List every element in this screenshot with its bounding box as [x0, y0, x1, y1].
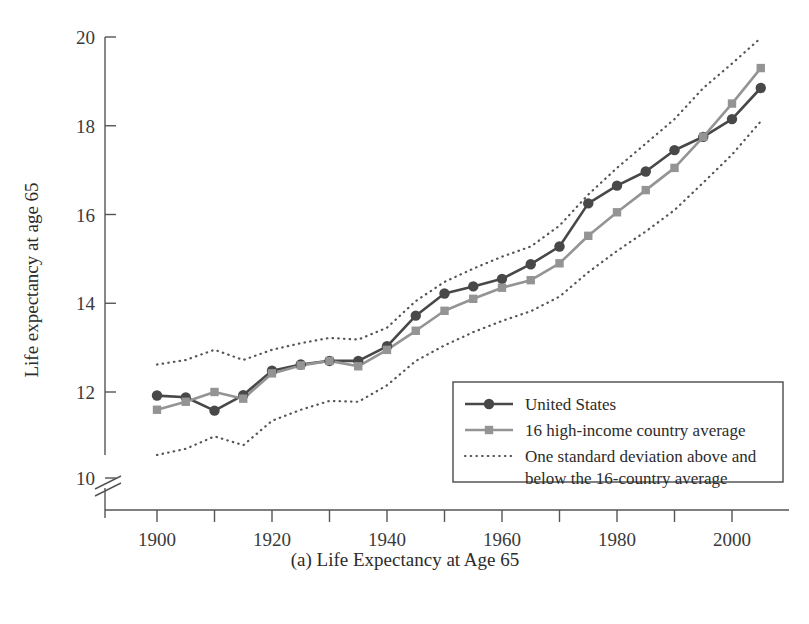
data-point	[497, 274, 507, 284]
y-tick-label: 18	[76, 116, 95, 137]
legend-label-line2: below the 16-country average	[525, 469, 728, 488]
figure-container: 101214161820 190019201940196019802000 Un…	[0, 0, 809, 624]
y-tick-label: 10	[76, 468, 95, 489]
data-point	[555, 259, 563, 267]
series-line-square	[157, 68, 761, 410]
legend: United States16 high-income country aver…	[453, 382, 783, 488]
x-tick-label: 1980	[598, 529, 636, 550]
data-point	[239, 394, 247, 402]
legend-marker-square	[485, 426, 493, 434]
data-point	[727, 114, 737, 124]
data-point	[526, 259, 536, 269]
data-point	[613, 208, 621, 216]
data-point	[642, 186, 650, 194]
data-point	[584, 232, 592, 240]
data-point	[439, 288, 449, 298]
data-point	[153, 406, 161, 414]
data-point	[554, 241, 564, 251]
legend-label: 16 high-income country average	[525, 421, 745, 440]
data-point	[440, 307, 448, 315]
data-point	[527, 276, 535, 284]
y-axis-title: Life expectancy at age 65	[21, 182, 42, 377]
data-point	[612, 180, 622, 190]
data-point	[469, 295, 477, 303]
legend-label: One standard deviation above and	[525, 447, 757, 466]
data-point	[152, 390, 162, 400]
data-point	[268, 369, 276, 377]
data-point	[468, 281, 478, 291]
legend-label: United States	[525, 395, 616, 414]
data-point	[756, 83, 766, 93]
y-tick-label: 16	[76, 205, 95, 226]
data-point	[641, 166, 651, 176]
data-point	[670, 164, 678, 172]
data-point-markers	[152, 64, 766, 416]
y-tick-label: 14	[76, 293, 96, 314]
data-point	[757, 64, 765, 72]
figure-caption: (a) Life Expectancy at Age 65	[291, 549, 519, 571]
data-point	[411, 310, 421, 320]
data-point	[498, 284, 506, 292]
legend-marker-circle	[484, 399, 494, 409]
y-tick-label: 20	[76, 27, 95, 48]
y-tick-label: 12	[76, 382, 95, 403]
data-point	[699, 133, 707, 141]
data-point	[728, 99, 736, 107]
y-axis-break-icon	[95, 476, 121, 496]
series-line-circle	[157, 88, 761, 411]
life-expectancy-line-chart: 101214161820 190019201940196019802000 Un…	[0, 0, 809, 624]
data-point	[412, 327, 420, 335]
x-tick-label: 1960	[483, 529, 521, 550]
x-tick-label: 1940	[368, 529, 406, 550]
series-line-none	[157, 38, 761, 365]
data-point	[325, 357, 333, 365]
x-tick-label: 2000	[713, 529, 751, 550]
data-point	[583, 198, 593, 208]
y-axis-ticks: 101214161820	[76, 27, 116, 489]
x-axis-ticks: 190019201940196019802000	[138, 510, 751, 550]
data-point	[669, 145, 679, 155]
data-point	[383, 346, 391, 354]
data-point	[354, 362, 362, 370]
data-point	[210, 388, 218, 396]
x-tick-label: 1900	[138, 529, 176, 550]
data-point	[182, 398, 190, 406]
data-point	[209, 405, 219, 415]
data-point	[297, 361, 305, 369]
x-tick-label: 1920	[253, 529, 291, 550]
